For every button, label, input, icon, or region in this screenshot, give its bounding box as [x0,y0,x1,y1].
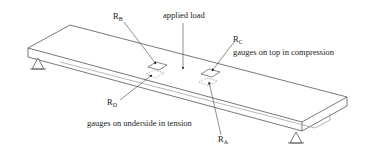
gauge-b-label: RB [113,12,123,21]
top-compression-note: gauges on top in compression [233,48,334,57]
beam-drawing [0,0,367,154]
beam-outline [28,25,347,131]
applied-load-label: applied load [163,11,205,20]
right-support-icon [288,132,304,143]
left-support-icon [30,58,46,69]
gauge-c-label: RC [233,35,243,44]
gauge-d-label: RD [107,98,117,107]
beam-diagram: RB applied load RC gauges on top in comp… [0,0,367,154]
bottom-tension-note: gauges on underside in tension [87,119,192,128]
gauge-a-label: RA [218,135,228,144]
